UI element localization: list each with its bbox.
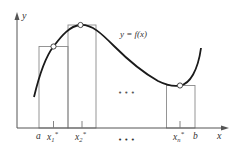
sample-point-ticks — [54, 121, 181, 128]
interval-end-label: b — [193, 131, 198, 141]
sample-point-marker-n — [177, 83, 182, 88]
sample-point-marker-1 — [51, 44, 56, 49]
rectangle-2 — [68, 25, 96, 128]
interval-start-label: a — [36, 131, 41, 141]
x-axis-arrow-icon — [221, 126, 229, 131]
y-axis-label: y — [21, 10, 27, 21]
x-axis-label: x — [216, 130, 222, 141]
rectangle-1 — [39, 47, 68, 129]
sample-label-x1: x1* — [46, 130, 58, 143]
sample-point-marker-2 — [78, 22, 83, 27]
y-axis-arrow-icon — [15, 12, 20, 20]
riemann-sum-diagram: y x y = f(x) a b x1* x2* xn* • • • • • • — [0, 0, 239, 148]
ellipsis-rectangles: • • • — [118, 89, 135, 97]
ellipsis-labels: • • • — [118, 136, 135, 144]
sample-label-x2: x2* — [74, 130, 86, 143]
sample-label-xn: xn* — [172, 130, 184, 143]
function-curve — [34, 25, 201, 97]
approximating-rectangles — [39, 25, 195, 128]
rectangle-n — [167, 86, 196, 129]
curve-label: y = f(x) — [119, 29, 147, 39]
